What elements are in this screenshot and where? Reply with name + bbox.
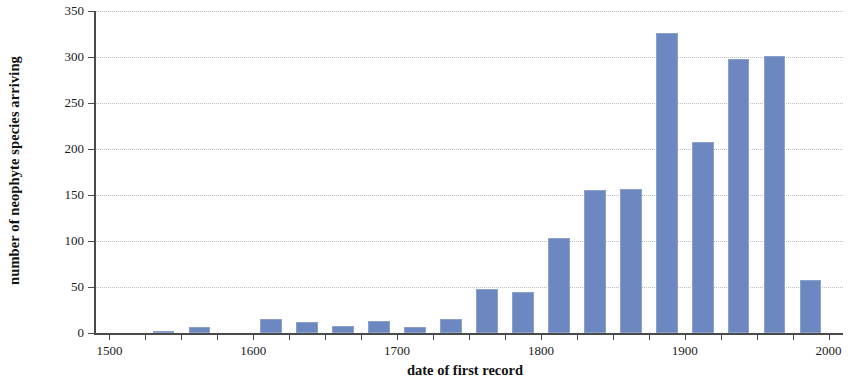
bar-1975: [764, 56, 786, 333]
x-tick-label-1600: 1600: [240, 343, 266, 359]
y-tick-label-150: 150: [65, 187, 85, 203]
bar-1900: [656, 33, 678, 333]
y-axis-line: [94, 11, 96, 333]
bar-1950: [728, 59, 750, 333]
bar-1875: [620, 189, 642, 333]
bar-1825: [548, 238, 570, 333]
gridline-y-350: [95, 11, 843, 12]
x-tick-label-2000: 2000: [816, 343, 842, 359]
y-tick-label-350: 350: [65, 3, 85, 19]
y-tick-label-100: 100: [65, 233, 85, 249]
y-tick-label-250: 250: [65, 95, 85, 111]
bar-1750: [440, 319, 462, 333]
plot-area: 050100150200250300350 150016001700180019…: [95, 11, 843, 333]
bar-1925: [692, 142, 714, 333]
bar-1675: [332, 326, 354, 333]
bar-1700: [368, 321, 390, 333]
bar-1625: [260, 319, 282, 333]
x-axis-line: [94, 333, 843, 335]
histogram-figure: number of neophyte species arriving 0501…: [0, 0, 848, 382]
bar-1650: [296, 322, 318, 333]
x-axis-title: date of first record: [95, 362, 835, 379]
y-tick-label-300: 300: [65, 49, 85, 65]
gridline-y-300: [95, 57, 843, 58]
x-tick-label-1800: 1800: [528, 343, 554, 359]
x-tick-label-1700: 1700: [384, 343, 410, 359]
y-axis-title: number of neophyte species arriving: [0, 0, 28, 340]
y-tick-label-50: 50: [71, 279, 84, 295]
bar-1800: [512, 292, 534, 333]
y-axis-title-text: number of neophyte species arriving: [6, 56, 23, 285]
bar-2000: [800, 280, 822, 333]
y-tick-label-200: 200: [65, 141, 85, 157]
x-tick-label-1900: 1900: [672, 343, 698, 359]
bar-1775: [476, 289, 498, 333]
bar-1850: [584, 190, 606, 333]
y-tick-label-0: 0: [78, 325, 85, 341]
x-tick-label-1500: 1500: [96, 343, 122, 359]
